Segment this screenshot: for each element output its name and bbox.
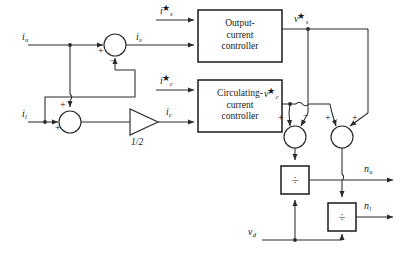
divider-upper-rect [281, 166, 309, 194]
diagram-canvas [0, 0, 406, 260]
output-current-controller-rect [198, 10, 282, 62]
summing-junction-lower-arm-voltage-circle [331, 126, 353, 148]
divider-lower-rect [328, 203, 356, 231]
circulating-current-controller-rect [198, 80, 282, 132]
wire-vc-hop [296, 102, 309, 105]
wire-vc-to-upper-sum [289, 104, 290, 126]
summing-junction-circulating-current-circle [59, 111, 81, 133]
block-diagram-figure: Output- current controller Circulating- … [0, 0, 406, 260]
summing-junction-output-current-circle [104, 34, 126, 56]
wire-il-feedback [45, 70, 135, 122]
half-gain-triangle-shape [130, 109, 158, 135]
wire-vs-to-upper-sum-arrow [301, 113, 308, 126]
wire-vs-to-lower-sum-arrow [350, 113, 368, 126]
summing-junction-upper-arm-voltage-circle [284, 126, 306, 148]
wire-lower-sum-hop [342, 174, 344, 180]
wire-vc-to-lower-sum [330, 104, 336, 126]
